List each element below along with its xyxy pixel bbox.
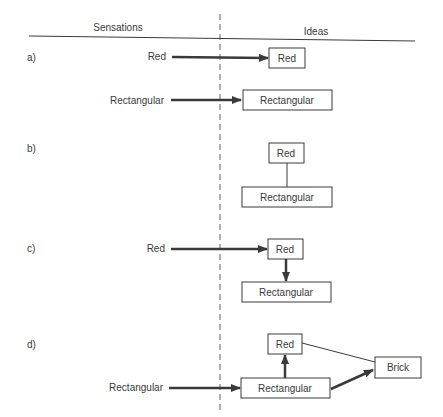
- idea-rectangular: Rectangular: [260, 95, 315, 106]
- idea-rectangular: Rectangular: [258, 383, 313, 394]
- arrow-sensation-to-idea: [172, 57, 268, 58]
- panel-label-d: d): [27, 339, 36, 350]
- sensation-rectangular: Rectangular: [109, 382, 164, 393]
- panel-label-b: b): [27, 143, 36, 154]
- sensation-rectangular: Rectangular: [110, 95, 165, 106]
- idea-red: Red: [277, 148, 295, 159]
- idea-red: Red: [276, 244, 294, 255]
- idea-brick: Brick: [387, 362, 410, 373]
- panel-b: b) Red Rectangular: [27, 143, 332, 207]
- panel-label-c: c): [27, 243, 35, 254]
- association-diagram: Sensations Ideas a) Red Red Rectangular …: [0, 0, 443, 417]
- idea-rectangular: Rectangular: [260, 192, 315, 203]
- header-divider: [29, 36, 415, 41]
- sensation-red: Red: [147, 243, 165, 254]
- idea-red: Red: [278, 53, 296, 64]
- header-sensations: Sensations: [93, 22, 142, 33]
- arrow-idea-to-idea: [331, 370, 373, 389]
- idea-red: Red: [276, 339, 294, 350]
- association-link: [302, 343, 375, 362]
- panel-d: d) Red Brick Rectangular Rectangular: [27, 334, 421, 398]
- panel-label-a: a): [27, 52, 36, 63]
- sensation-red: Red: [148, 51, 166, 62]
- header-ideas: Ideas: [304, 26, 328, 37]
- idea-rectangular: Rectangular: [259, 287, 314, 298]
- panel-a: a) Red Red Rectangular Rectangular: [27, 48, 332, 110]
- panel-c: c) Red Red Rectangular: [27, 239, 331, 302]
